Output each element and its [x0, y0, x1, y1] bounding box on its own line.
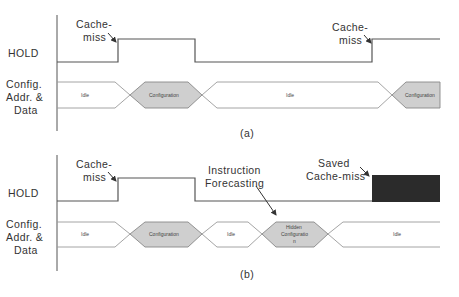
bus-segment-b-config: Configuration: [149, 231, 179, 237]
bus-segment-b-hidden-l1: Hidden: [286, 224, 302, 230]
bus-segment-b-hidden-l3: n: [293, 238, 296, 244]
saved-cache-miss-label-l2: Cache-miss: [306, 170, 365, 182]
panel-b: HOLD Config. Addr. & Data Cache- miss In…: [6, 155, 440, 280]
saved-cache-miss-label-l1: Saved: [318, 157, 350, 169]
bus-segment-b-idle-2: Idle: [227, 231, 235, 237]
cache-miss-arrow-a2: [364, 35, 371, 43]
instruction-forecasting-label-l2: Forecasting: [205, 177, 264, 189]
instruction-forecasting-label-l1: Instruction: [208, 164, 261, 176]
cache-miss-arrow-a1: [108, 33, 116, 42]
bus-segment-a-config-2: Configuration: [405, 92, 435, 98]
bus-waveform-b: [57, 222, 440, 247]
hold-waveform-a: [57, 39, 440, 62]
cache-miss-label-a2-l2: miss: [339, 34, 362, 46]
cache-miss-arrow-b1: [108, 172, 116, 181]
bus-segment-a-idle-1: Idle: [81, 92, 89, 98]
bus-segment-b-idle-3: Idle: [393, 231, 401, 237]
panel-b-caption: (b): [240, 268, 254, 280]
bus-label-a-1: Config.: [6, 78, 42, 90]
bus-segment-b-idle-1: Idle: [81, 231, 89, 237]
cache-miss-label-b1-l1: Cache-: [76, 158, 112, 170]
cache-miss-label-a2-l1: Cache-: [332, 21, 368, 33]
bus-label-a-2: Addr. &: [6, 91, 43, 103]
timing-diagram: HOLD Config. Addr. & Data Cache- miss Ca…: [0, 0, 459, 297]
panel-a: HOLD Config. Addr. & Data Cache- miss Ca…: [6, 15, 440, 139]
hold-label-b: HOLD: [8, 187, 39, 199]
bus-segment-a-idle-2: Idle: [286, 92, 294, 98]
bus-waveform-a: [57, 82, 440, 108]
bus-segment-b-hidden-l2: Configuratio: [281, 231, 308, 237]
bus-label-b-2: Addr. &: [6, 231, 43, 243]
hold-label-a: HOLD: [8, 47, 39, 59]
bus-label-b-1: Config.: [6, 218, 42, 230]
bus-label-a-3: Data: [14, 104, 38, 116]
cache-miss-label-b1-l2: miss: [83, 171, 106, 183]
bus-segment-a-config-1: Configuration: [149, 92, 179, 98]
panel-a-caption: (a): [240, 127, 254, 139]
cache-miss-label-a1-l1: Cache-: [76, 18, 112, 30]
saved-cache-miss-block: [372, 175, 440, 202]
cache-miss-label-a1-l2: miss: [83, 31, 106, 43]
bus-label-b-3: Data: [14, 244, 38, 256]
